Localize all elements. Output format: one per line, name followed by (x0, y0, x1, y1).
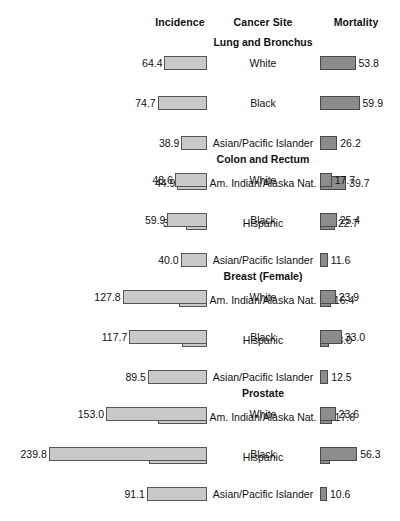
site-label: Black (208, 214, 318, 226)
site-label: White (208, 174, 318, 186)
section-rows: 48.6White17.759.9Black25.440.0Asian/Paci… (0, 170, 400, 270)
chart-row: 38.9Asian/Pacific Islander26.2 (0, 133, 400, 153)
incidence-bar (175, 173, 207, 187)
mortality-value: 17.7 (335, 174, 355, 186)
site-label: White (208, 291, 318, 303)
chart-row: 117.7Black33.0 (0, 327, 400, 347)
incidence-value: 74.7 (100, 97, 156, 109)
mortality-value: 23.9 (339, 291, 359, 303)
incidence-value: 38.9 (123, 137, 179, 149)
cancer-rates-figure: Incidence Cancer Site Mortality Lung and… (0, 0, 400, 521)
section-title: Breast (Female) (208, 270, 318, 282)
mortality-value: 25.4 (340, 214, 360, 226)
incidence-value: 40.0 (123, 254, 179, 266)
mortality-bar (320, 447, 357, 461)
mortality-bar (320, 407, 336, 421)
section-title: Prostate (208, 387, 318, 399)
incidence-value: 153.0 (48, 408, 104, 420)
incidence-bar (167, 213, 207, 227)
figure-caption (22, 514, 382, 521)
incidence-value: 89.5 (90, 371, 146, 383)
incidence-value: 48.6 (117, 174, 173, 186)
chart-row: 48.6White17.7 (0, 170, 400, 190)
chart-row: 74.7Black59.9 (0, 93, 400, 113)
mortality-value: 12.5 (331, 371, 351, 383)
mortality-bar (320, 290, 336, 304)
incidence-bar (181, 136, 207, 150)
mortality-bar (320, 213, 337, 227)
section-title: Lung and Bronchus (208, 36, 318, 48)
section-rows: 153.0White23.6239.8Black56.391.1Asian/Pa… (0, 404, 400, 504)
incidence-bar (49, 447, 207, 461)
incidence-bar (129, 330, 207, 344)
mortality-value: 53.8 (359, 57, 379, 69)
column-header-mortality: Mortality (318, 16, 394, 28)
mortality-bar (320, 56, 356, 70)
incidence-bar (123, 290, 207, 304)
site-label: Asian/Pacific Islander (208, 137, 318, 149)
site-label: Asian/Pacific Islander (208, 254, 318, 266)
mortality-bar (320, 487, 327, 501)
chart-row: 239.8Black56.3 (0, 444, 400, 464)
column-header-cancer-site: Cancer Site (213, 16, 313, 28)
mortality-bar (320, 96, 360, 110)
section-rows: 127.8White23.9117.7Black33.089.5Asian/Pa… (0, 287, 400, 387)
chart-row: 59.9Black25.4 (0, 210, 400, 230)
mortality-bar (320, 173, 332, 187)
chart-row: 89.5Asian/Pacific Islander12.5 (0, 367, 400, 387)
site-label: Asian/Pacific Islander (208, 488, 318, 500)
mortality-value: 59.9 (363, 97, 383, 109)
site-label: White (208, 408, 318, 420)
site-label: Black (208, 448, 318, 460)
incidence-value: 59.9 (109, 214, 165, 226)
mortality-value: 10.6 (330, 488, 350, 500)
mortality-bar (320, 330, 342, 344)
mortality-value: 23.6 (339, 408, 359, 420)
incidence-bar (164, 56, 207, 70)
chart-row: 127.8White23.9 (0, 287, 400, 307)
mortality-bar (320, 136, 337, 150)
chart-row: 153.0White23.6 (0, 404, 400, 424)
incidence-value: 64.4 (106, 57, 162, 69)
mortality-value: 26.2 (340, 137, 360, 149)
incidence-value: 127.8 (65, 291, 121, 303)
section-rows: 64.4White53.874.7Black59.938.9Asian/Paci… (0, 53, 400, 153)
mortality-bar (320, 370, 328, 384)
incidence-value: 91.1 (89, 488, 145, 500)
site-label: Black (208, 97, 318, 109)
incidence-value: 117.7 (71, 331, 127, 343)
incidence-bar (147, 487, 207, 501)
chart-row: 91.1Asian/Pacific Islander10.6 (0, 484, 400, 504)
incidence-bar (106, 407, 207, 421)
site-label: White (208, 57, 318, 69)
incidence-bar (158, 96, 207, 110)
incidence-bar (148, 370, 207, 384)
mortality-value: 33.0 (345, 331, 365, 343)
mortality-value: 11.6 (331, 254, 351, 266)
site-label: Black (208, 331, 318, 343)
incidence-bar (181, 253, 207, 267)
site-label: Asian/Pacific Islander (208, 371, 318, 383)
column-header-incidence: Incidence (140, 16, 220, 28)
section-title: Colon and Rectum (208, 153, 318, 165)
chart-row: 64.4White53.8 (0, 53, 400, 73)
column-header-row: Incidence Cancer Site Mortality (0, 16, 400, 32)
mortality-value: 56.3 (360, 448, 380, 460)
chart-row: 40.0Asian/Pacific Islander11.6 (0, 250, 400, 270)
incidence-value: 239.8 (0, 448, 47, 460)
mortality-bar (320, 253, 328, 267)
